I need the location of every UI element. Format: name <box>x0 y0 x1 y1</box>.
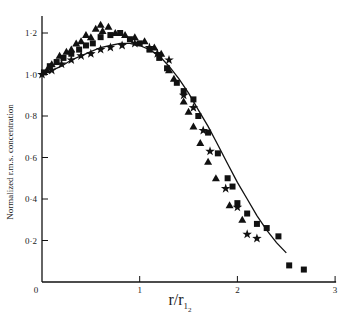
x-axis-label: r/r12 <box>168 291 192 314</box>
square-marker <box>205 130 211 136</box>
square-marker <box>264 225 270 231</box>
triangle-marker <box>99 27 107 34</box>
square-marker <box>83 42 89 48</box>
triangle-marker <box>226 201 234 208</box>
y-tick-label: 0·2 <box>25 236 37 246</box>
triangle-marker <box>204 158 212 165</box>
square-marker <box>230 184 236 190</box>
square-marker <box>137 40 143 46</box>
chart: 01230·20·40·60·81·01·2 Normalized r.m.s.… <box>0 0 352 332</box>
square-marker <box>54 59 60 65</box>
x-tick-label: 3 <box>333 285 338 295</box>
star-marker <box>242 229 252 238</box>
square-marker <box>90 40 96 46</box>
x-tick-label: 0 <box>34 285 39 295</box>
square-marker <box>254 221 260 227</box>
triangle-marker <box>196 139 204 146</box>
y-axis-label: Normalized r.m.s. concentration <box>5 104 15 220</box>
star-marker <box>117 41 127 50</box>
triangle-marker <box>180 97 188 104</box>
y-tick-label: 0·4 <box>25 194 37 204</box>
y-tick-label: 0·6 <box>25 153 37 163</box>
square-marker <box>117 30 123 36</box>
square-marker <box>301 267 307 273</box>
square-marker <box>286 262 292 268</box>
y-tick-label: 0·8 <box>25 111 37 121</box>
model-curve-path <box>42 43 286 253</box>
square-marker <box>275 233 281 239</box>
star-marker <box>205 146 215 155</box>
square-marker <box>215 150 221 156</box>
square-marker <box>164 65 170 71</box>
star-marker <box>106 43 116 52</box>
square-marker <box>225 175 231 181</box>
star-marker <box>221 184 231 193</box>
square-marker <box>190 96 196 102</box>
model-curve <box>42 43 286 253</box>
square-marker <box>98 34 104 40</box>
x-tick-label: 2 <box>235 285 240 295</box>
star-marker <box>252 233 262 242</box>
data-markers <box>37 21 307 273</box>
y-tick-label: 1·0 <box>25 70 37 80</box>
y-tick-label: 1·2 <box>25 28 37 38</box>
star-marker <box>96 45 106 54</box>
star-marker <box>189 103 199 112</box>
square-marker <box>107 32 113 38</box>
square-marker <box>195 113 201 119</box>
triangle-marker <box>104 23 112 30</box>
square-marker <box>174 80 180 86</box>
star-marker <box>233 202 243 211</box>
x-tick-label: 1 <box>137 285 142 295</box>
triangle-marker <box>189 122 197 129</box>
square-marker <box>244 211 250 217</box>
square-marker <box>127 36 133 42</box>
triangle-marker <box>212 174 220 181</box>
triangle-marker <box>238 216 246 223</box>
triangle-marker <box>97 21 105 28</box>
